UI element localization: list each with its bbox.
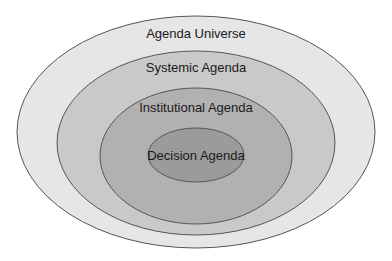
- label-systemic-agenda: Systemic Agenda: [146, 60, 247, 75]
- label-agenda-universe: Agenda Universe: [146, 26, 246, 41]
- label-institutional-agenda: Institutional Agenda: [139, 100, 253, 115]
- agenda-diagram: Agenda Universe Systemic Agenda Institut…: [0, 0, 392, 261]
- label-decision-agenda: Decision Agenda: [147, 148, 245, 163]
